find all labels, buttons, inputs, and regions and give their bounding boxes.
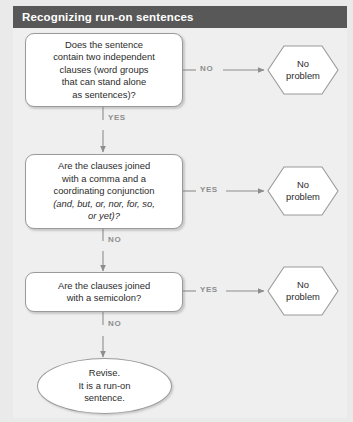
edge-label-q2-yes: YES <box>200 185 218 194</box>
edge-label-q3-no: NO <box>108 319 121 328</box>
end-line-3: sentence. <box>84 392 125 403</box>
terminal-node-revise[interactable]: Revise. It is a run-on sentence. <box>37 358 172 414</box>
out1-line-2: problem <box>286 70 320 81</box>
decision-node-independent-clauses[interactable]: Does the sentence contain two independen… <box>25 33 183 107</box>
out3-line-1: No <box>297 279 309 290</box>
outcome-node-no-problem-1[interactable]: No problem <box>266 44 340 96</box>
outcome-node-no-problem-1-text: No problem <box>266 44 340 96</box>
outcome-node-no-problem-2[interactable]: No problem <box>266 165 340 217</box>
outcome-node-no-problem-3[interactable]: No problem <box>266 265 340 317</box>
edge-label-q1-yes: YES <box>108 113 126 122</box>
q3-line-1: Are the clauses joined <box>58 280 150 291</box>
out2-line-1: No <box>297 179 309 190</box>
decision-node-semicolon-text: Are the clauses joined with a semicolon? <box>53 280 155 305</box>
edge-label-q2-no: NO <box>108 235 121 244</box>
q1-line-2: contain two independent <box>53 51 155 62</box>
terminal-node-revise-text: Revise. It is a run-on sentence. <box>78 367 130 404</box>
out3-line-2: problem <box>286 291 320 302</box>
edge-label-q1-no: NO <box>200 64 213 73</box>
decision-node-comma-conjunction[interactable]: Are the clauses joined with a comma and … <box>25 154 183 229</box>
q1-line-1: Does the sentence <box>65 39 143 50</box>
header-band: Recognizing run-on sentences <box>13 6 347 28</box>
end-line-2: It is a run-on <box>78 380 130 391</box>
end-line-1: Revise. <box>89 367 120 378</box>
q1-line-3: clauses (word groups <box>59 64 148 75</box>
out2-line-2: problem <box>286 191 320 202</box>
decision-node-comma-conjunction-text: Are the clauses joined with a comma and … <box>48 160 160 222</box>
flowchart-page: Recognizing run-on sentences Does the se <box>0 0 353 422</box>
outcome-node-no-problem-3-text: No problem <box>266 265 340 317</box>
page-title: Recognizing run-on sentences <box>13 11 194 23</box>
q3-line-2: with a semicolon? <box>67 292 142 303</box>
q2-line-4-conjunctions: (and, but, or, nor, for, so, <box>53 198 155 209</box>
outcome-node-no-problem-2-text: No problem <box>266 165 340 217</box>
q2-line-1: Are the clauses joined <box>58 160 150 171</box>
q1-line-4: that can stand alone <box>62 76 146 87</box>
decision-node-semicolon[interactable]: Are the clauses joined with a semicolon? <box>25 272 183 312</box>
q2-line-2: with a comma and a <box>62 173 146 184</box>
out1-line-1: No <box>297 58 309 69</box>
q2-line-5-conjunctions: or yet)? <box>88 210 120 221</box>
edge-label-q3-yes: YES <box>200 285 218 294</box>
q2-line-3: coordinating conjunction <box>53 185 154 196</box>
decision-node-independent-clauses-text: Does the sentence contain two independen… <box>48 39 160 101</box>
q1-line-5: as sentences)? <box>72 89 136 100</box>
